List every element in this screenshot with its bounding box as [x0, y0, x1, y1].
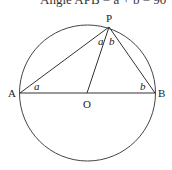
circle-diagram: P A B O a b a b: [0, 0, 172, 170]
label-B: B: [158, 87, 165, 99]
label-A: A: [8, 87, 16, 99]
label-O: O: [83, 98, 91, 110]
angle-a-at-A: a: [34, 80, 40, 92]
angle-a-at-P: a: [98, 35, 104, 47]
angle-b-at-B: b: [140, 80, 146, 92]
angle-b-at-P: b: [109, 35, 115, 47]
label-P: P: [106, 12, 112, 24]
chord-BP: [109, 27, 155, 93]
